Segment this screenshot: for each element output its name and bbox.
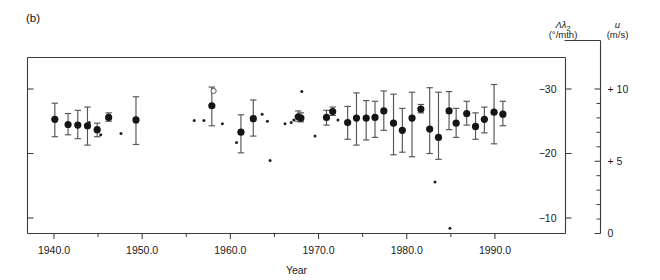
data-point-small <box>433 180 436 183</box>
data-point-mean <box>250 115 257 122</box>
data-point-small <box>300 90 303 93</box>
x-tick-label: 1940.0 <box>38 244 70 256</box>
data-point-mean <box>51 116 58 123</box>
x-axis: 1940.01950.01960.01970.01980.01990.0 <box>38 234 511 256</box>
y-left-tick-label: −30 <box>539 83 557 95</box>
u-tick-label: + 10 <box>608 83 629 95</box>
x-tick-label: 1960.0 <box>214 244 246 256</box>
data-point-small <box>119 132 122 135</box>
x-tick-label: 1970.0 <box>302 244 334 256</box>
data-point-small <box>336 118 339 121</box>
data-point-mean <box>323 114 330 121</box>
data-point-small <box>269 159 272 162</box>
x-tick-label: 1980.0 <box>391 244 423 256</box>
scatter-plot-canvas: 1940.01950.01960.01970.01980.01990.0 −30… <box>0 0 660 280</box>
u-tick-label: 0 <box>608 227 614 239</box>
data-point-small <box>292 118 295 121</box>
y-left-tick-label: −10 <box>539 212 557 224</box>
data-point-small <box>221 122 224 125</box>
data-point-small <box>193 119 196 122</box>
data-point-small <box>99 133 102 136</box>
data-point-small <box>88 121 91 124</box>
data-point-mean <box>363 114 370 121</box>
data-point-mean <box>453 120 460 127</box>
data-point-mean <box>445 107 452 114</box>
data-point-small <box>448 227 451 230</box>
data-point-small <box>284 122 287 125</box>
y-left-tick-label: −20 <box>539 147 557 159</box>
y-left-axis-caption: Λλ2(°/mth) <box>549 19 578 40</box>
data-point-mean <box>237 129 244 136</box>
y-axis-left: −30−20−10 <box>28 83 572 224</box>
data-point-small <box>314 135 317 138</box>
data-point-mean <box>64 121 71 128</box>
series-small-dot <box>88 90 452 230</box>
svg-text:(°/mth): (°/mth) <box>549 29 578 40</box>
data-point-mean <box>380 107 387 114</box>
data-point-small <box>202 119 205 122</box>
data-point-small <box>290 121 293 124</box>
data-point-mean <box>208 102 215 109</box>
y-axis-right: + 10+ 50 <box>595 83 629 240</box>
data-point-mean <box>499 111 506 118</box>
data-point-mean <box>329 108 336 115</box>
data-point-mean <box>417 105 424 112</box>
data-point-mean <box>481 116 488 123</box>
data-point-small <box>235 141 238 144</box>
data-point-mean <box>371 114 378 121</box>
data-point-mean <box>435 134 442 141</box>
data-point-mean <box>353 114 360 121</box>
x-tick-label: 1950.0 <box>126 244 158 256</box>
data-point-mean <box>390 120 397 127</box>
x-axis-title: Year <box>286 264 308 276</box>
data-point-small <box>266 120 269 123</box>
data-point-mean <box>426 125 433 132</box>
series-open-circle <box>211 88 216 93</box>
data-series-group <box>51 84 506 229</box>
data-point-mean <box>105 114 112 121</box>
data-point-mean <box>297 114 304 121</box>
data-point-mean <box>344 119 351 126</box>
svg-text:(m/s): (m/s) <box>607 29 629 40</box>
data-point-small <box>261 113 264 116</box>
u-axis-caption: u(m/s) <box>607 19 629 40</box>
data-point-mean <box>408 114 415 121</box>
data-point-mean <box>463 110 470 117</box>
u-tick-label: + 5 <box>608 155 623 167</box>
x-tick-label: 1990.0 <box>479 244 511 256</box>
data-point-mean <box>399 127 406 134</box>
series-filled-circle <box>51 84 506 159</box>
data-point-open <box>211 88 216 93</box>
figure-panel-b: (b) 1940.01950.01960.01970.01980.01990.0… <box>0 0 660 280</box>
data-point-mean <box>132 116 139 123</box>
data-point-mean <box>472 123 479 130</box>
data-point-mean <box>490 109 497 116</box>
data-point-mean <box>74 122 81 129</box>
data-point-mean <box>94 126 101 133</box>
